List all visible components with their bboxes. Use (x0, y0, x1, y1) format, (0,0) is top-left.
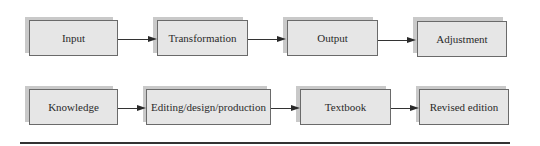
arrowhead-icon (277, 36, 286, 42)
node-label: Editing/design/production (151, 101, 266, 113)
arrow-line (118, 108, 139, 109)
node-knowledge: Knowledge (29, 89, 118, 125)
bottom-rule (20, 142, 510, 144)
arrowhead-icon (148, 36, 157, 42)
node-label: Textbook (325, 101, 366, 113)
arrowhead-icon (410, 105, 419, 111)
node-label: Adjustment (436, 33, 487, 45)
node-textbook: Textbook (300, 89, 391, 125)
arrow-line (378, 40, 409, 41)
node-label: Revised edition (430, 101, 499, 113)
arrowhead-icon (407, 37, 416, 43)
node-label: Knowledge (48, 101, 99, 113)
node-transformation: Transformation (157, 20, 248, 56)
arrow-line (271, 108, 293, 109)
arrow-line (248, 39, 279, 40)
node-editing-design-production: Editing/design/production (146, 89, 271, 125)
arrow-line (391, 108, 412, 109)
node-label: Transformation (168, 32, 236, 44)
node-adjustment: Adjustment (417, 21, 507, 57)
arrow-line (118, 39, 150, 40)
node-label: Input (62, 32, 85, 44)
arrowhead-icon (291, 105, 300, 111)
node-input: Input (29, 20, 118, 56)
node-output: Output (287, 20, 378, 56)
node-label: Output (317, 32, 348, 44)
arrowhead-icon (137, 105, 146, 111)
node-revised-edition: Revised edition (419, 89, 509, 125)
